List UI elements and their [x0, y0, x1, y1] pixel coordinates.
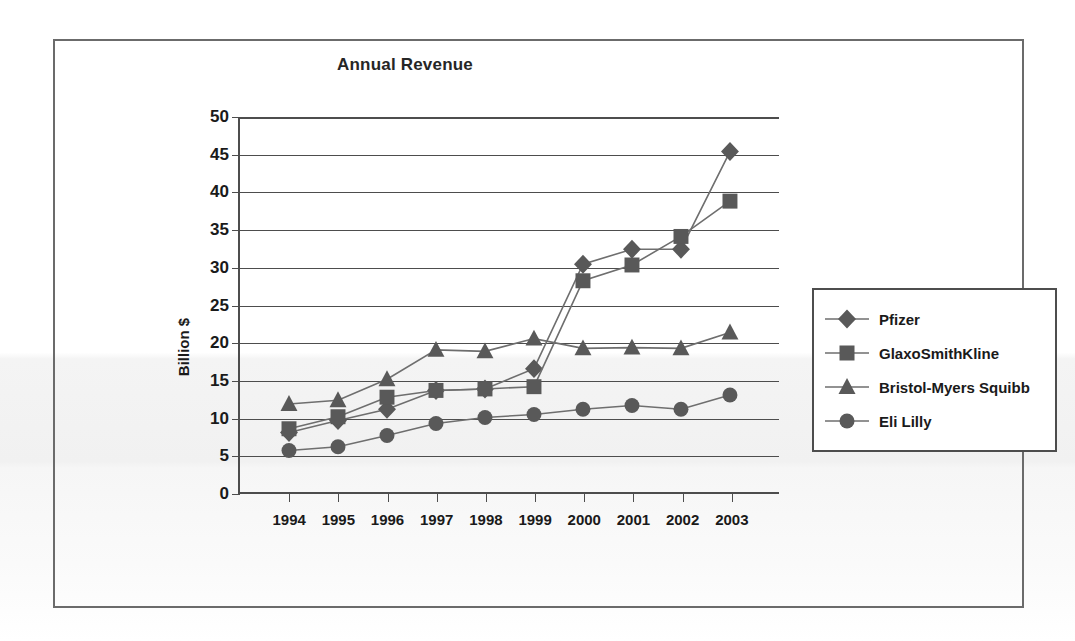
- square-marker-icon: [824, 343, 870, 363]
- y-tick: [232, 192, 240, 193]
- x-tick-label: 1995: [322, 511, 355, 528]
- y-tick: [232, 494, 240, 495]
- data-point-square-marker: [625, 258, 640, 273]
- y-axis-title: Billion $: [175, 318, 192, 376]
- x-tick: [584, 494, 585, 502]
- plot-area: 05101520253035404550 1994199519961997199…: [238, 117, 779, 494]
- x-tick-label: 2003: [715, 511, 748, 528]
- legend-label: Bristol-Myers Squibb: [879, 379, 1030, 396]
- y-tick-label: 50: [210, 107, 229, 127]
- y-tick-label: 5: [220, 446, 229, 466]
- chart-frame: Annual Revenue Billion $ 051015202530354…: [53, 39, 1024, 608]
- legend-label: Eli Lilly: [879, 413, 932, 430]
- data-point-square-marker: [722, 194, 737, 209]
- data-point-square-marker: [674, 229, 689, 244]
- y-tick: [232, 230, 240, 231]
- data-point-triangle-marker: [673, 339, 690, 355]
- plot-wrapper: Billion $ 05101520253035404550 199419951…: [150, 117, 831, 577]
- legend-item-glaxosmithkline[interactable]: GlaxoSmithKline: [814, 336, 1055, 370]
- x-tick-label: 1998: [469, 511, 502, 528]
- legend-item-pfizer[interactable]: Pfizer: [814, 302, 1055, 336]
- data-point-triangle-marker: [330, 391, 347, 407]
- data-point-square-marker: [282, 421, 297, 436]
- data-point-triangle-marker: [722, 324, 739, 340]
- data-point-circle-marker: [429, 416, 444, 431]
- x-tick: [388, 494, 389, 502]
- series-line: [289, 395, 730, 451]
- data-point-circle-marker: [722, 387, 737, 402]
- legend-item-bristol-myers-squibb[interactable]: Bristol-Myers Squibb: [814, 370, 1055, 404]
- x-tick-label: 2000: [568, 511, 601, 528]
- data-point-circle-marker: [625, 398, 640, 413]
- y-tick: [232, 155, 240, 156]
- x-tick-label: 1997: [420, 511, 453, 528]
- series-line: [289, 201, 730, 429]
- chart-title: Annual Revenue: [55, 55, 755, 75]
- data-point-circle-marker: [576, 402, 591, 417]
- data-point-triangle-marker: [624, 339, 641, 355]
- y-tick: [232, 117, 240, 118]
- data-point-circle-marker: [478, 410, 493, 425]
- legend: PfizerGlaxoSmithKlineBristol-Myers Squib…: [812, 288, 1057, 452]
- x-tick: [486, 494, 487, 502]
- y-tick: [232, 381, 240, 382]
- data-point-triangle-marker: [428, 341, 445, 357]
- y-tick: [232, 419, 240, 420]
- x-tick-label: 2002: [666, 511, 699, 528]
- y-tick-label: 30: [210, 258, 229, 278]
- data-point-circle-marker: [331, 439, 346, 454]
- x-tick: [338, 494, 339, 502]
- data-point-square-marker: [478, 381, 493, 396]
- y-tick-label: 20: [210, 333, 229, 353]
- x-tick-label: 1994: [272, 511, 305, 528]
- data-point-diamond-marker: [525, 359, 543, 378]
- data-point-square-marker: [331, 409, 346, 424]
- x-tick: [289, 494, 290, 502]
- series-pfizer: [280, 142, 739, 442]
- x-tick: [683, 494, 684, 502]
- y-tick-label: 15: [210, 371, 229, 391]
- y-tick-label: 35: [210, 220, 229, 240]
- y-tick: [232, 306, 240, 307]
- x-tick-label: 2001: [617, 511, 650, 528]
- data-point-square-marker: [576, 273, 591, 288]
- diamond-marker-icon: [824, 309, 870, 329]
- data-point-diamond-marker: [623, 240, 641, 259]
- y-tick-label: 10: [210, 409, 229, 429]
- y-tick: [232, 268, 240, 269]
- circle-marker-icon: [824, 411, 870, 431]
- data-point-circle-marker: [674, 402, 689, 417]
- legend-item-eli-lilly[interactable]: Eli Lilly: [814, 404, 1055, 438]
- data-point-circle-marker: [282, 443, 297, 458]
- data-point-circle-marker: [527, 407, 542, 422]
- legend-label: Pfizer: [879, 311, 920, 328]
- data-point-square-marker: [527, 379, 542, 394]
- y-tick-label: 25: [210, 296, 229, 316]
- legend-label: GlaxoSmithKline: [879, 345, 999, 362]
- series-glaxosmithkline: [282, 194, 738, 437]
- series-layer: [240, 117, 779, 493]
- data-point-square-marker: [380, 390, 395, 405]
- y-tick: [232, 456, 240, 457]
- series-bristol-myers-squibb: [281, 324, 739, 411]
- x-tick: [732, 494, 733, 502]
- data-point-square-marker: [429, 383, 444, 398]
- y-tick-label: 40: [210, 182, 229, 202]
- x-tick: [633, 494, 634, 502]
- y-tick-label: 45: [210, 145, 229, 165]
- series-line: [289, 333, 730, 404]
- series-eli-lilly: [282, 387, 738, 458]
- y-tick: [232, 343, 240, 344]
- x-tick-label: 1996: [371, 511, 404, 528]
- data-point-circle-marker: [380, 428, 395, 443]
- series-line: [289, 152, 730, 433]
- x-tick: [437, 494, 438, 502]
- x-tick-label: 1999: [518, 511, 551, 528]
- data-point-triangle-marker: [526, 330, 543, 346]
- data-point-triangle-marker: [379, 370, 396, 386]
- y-tick-label: 0: [220, 484, 229, 504]
- data-point-diamond-marker: [574, 255, 592, 274]
- x-tick: [535, 494, 536, 502]
- triangle-marker-icon: [824, 377, 870, 397]
- data-point-diamond-marker: [721, 142, 739, 161]
